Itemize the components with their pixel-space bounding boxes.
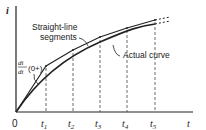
tick-label-t5: t5	[150, 118, 157, 130]
straight-line-label-2: segments	[40, 32, 77, 42]
curve-extension	[155, 21, 170, 24]
derivative-argument: (0+)	[28, 64, 43, 73]
tick-label-t3: t3	[95, 118, 102, 130]
derivative-denominator: dt	[18, 68, 25, 76]
tick-labels: t1 t2 t3 t4 t5	[41, 118, 157, 130]
derivative-numerator: di	[18, 59, 24, 67]
actual-curve-pointer-icon	[113, 45, 120, 56]
tick-label-t1: t1	[41, 118, 47, 130]
x-axis-label: t	[187, 118, 190, 129]
segments-extension	[155, 17, 170, 20]
tick-label-t2: t2	[68, 118, 75, 130]
straight-line-label-1: Straight-line	[32, 22, 78, 32]
origin-label: 0	[12, 118, 18, 129]
piecewise-linear-approximation-diagram: i t 0 t1 t2 t3 t4 t5 Straight-line segme…	[0, 0, 206, 130]
tick-label-t4: t4	[122, 118, 129, 130]
y-axis-label: i	[6, 5, 9, 16]
actual-curve-label: Actual curve	[123, 50, 170, 60]
